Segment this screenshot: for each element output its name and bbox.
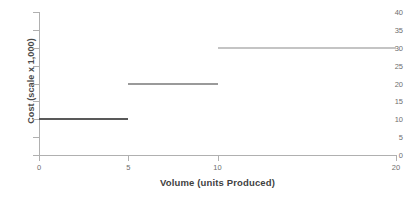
- x-tick-mark: [218, 155, 219, 161]
- x-axis-title: Volume (units Produced): [39, 177, 396, 188]
- y-tick-label: 10: [373, 115, 403, 124]
- y-tick-label: 5: [373, 133, 403, 142]
- y-tick-label: 35: [373, 25, 403, 34]
- step-segment: [39, 118, 128, 120]
- y-tick-label: 0: [373, 151, 403, 160]
- x-tick-label: 5: [113, 163, 143, 172]
- x-tick-label: 20: [381, 163, 408, 172]
- x-tick-label: 10: [203, 163, 233, 172]
- x-tick-mark: [128, 155, 129, 161]
- y-tick-label: 25: [373, 61, 403, 70]
- x-tick-mark: [396, 155, 397, 161]
- y-tick-mark: [33, 48, 39, 49]
- y-tick-label: 15: [373, 97, 403, 106]
- y-tick-mark: [33, 30, 39, 31]
- y-tick-mark: [33, 12, 39, 13]
- y-tick-label: 40: [373, 8, 403, 17]
- y-tick-mark: [33, 137, 39, 138]
- y-tick-mark: [33, 66, 39, 67]
- x-tick-mark: [39, 155, 40, 161]
- y-tick-mark: [33, 84, 39, 85]
- y-tick-mark: [33, 101, 39, 102]
- x-tick-label: 0: [24, 163, 54, 172]
- y-axis-line: [39, 12, 40, 156]
- step-segment: [128, 83, 217, 85]
- step-segment: [218, 47, 397, 49]
- y-tick-label: 20: [373, 79, 403, 88]
